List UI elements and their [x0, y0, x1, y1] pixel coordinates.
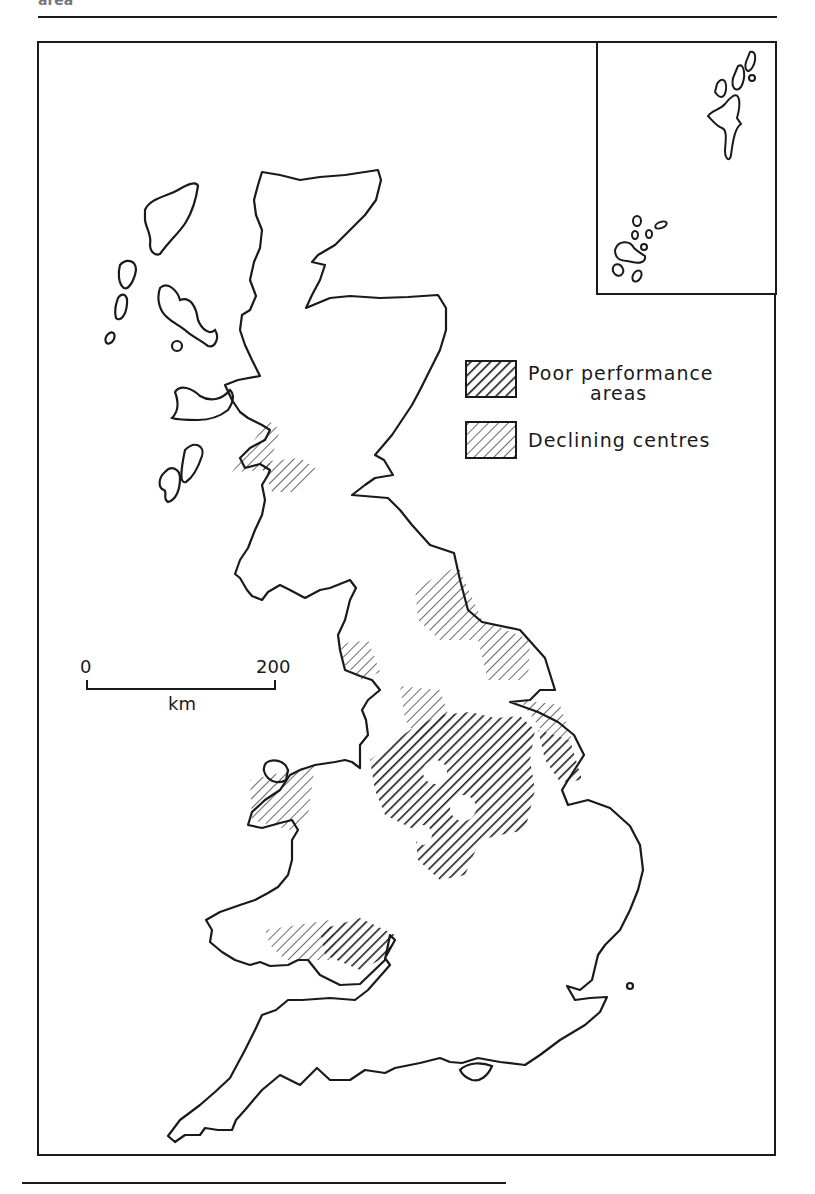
- great-britain-outline: [168, 170, 643, 1142]
- legend-swatch-poor-performance: [466, 361, 516, 397]
- legend-label-line1: Declining centres: [528, 430, 710, 450]
- scale-unit-label: km: [168, 693, 196, 714]
- legend-label-line1: Poor performance: [528, 363, 714, 383]
- islay-outline: [160, 468, 180, 502]
- scale-bar: [87, 680, 275, 689]
- skye-outline: [158, 285, 217, 346]
- scale-start-label: 0: [80, 656, 91, 677]
- lewis-harris-outline: [145, 183, 198, 254]
- declining-centres-regions: [232, 420, 572, 960]
- jura-outline: [181, 445, 202, 482]
- isle-of-wight-outline: [460, 1063, 492, 1080]
- legend-label-line2: areas: [528, 383, 714, 403]
- legend-label-poor-performance: Poor performance areas: [528, 363, 714, 403]
- mull-outline: [172, 388, 233, 420]
- map-canvas: [0, 0, 815, 1194]
- inset-box: [597, 42, 776, 294]
- legend-swatch-declining-centres: [466, 422, 516, 458]
- scale-end-label: 200: [256, 656, 290, 677]
- legend-label-declining-centres: Declining centres: [528, 430, 710, 450]
